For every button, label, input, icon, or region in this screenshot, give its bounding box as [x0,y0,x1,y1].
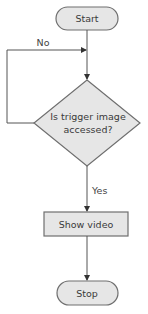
decision-node: Is trigger image accessed? [34,80,140,166]
stop-label: Stop [76,288,98,299]
flowchart: Start No Is trigger image accessed? Yes … [0,0,148,314]
process-node: Show video [44,212,128,236]
stop-node: Stop [57,281,118,305]
decision-label-line2: accessed? [64,124,113,135]
process-label: Show video [59,219,114,230]
no-label: No [37,37,50,48]
yes-label: Yes [91,185,107,196]
start-label: Start [75,13,98,24]
start-node: Start [56,7,118,30]
decision-label-line1: Is trigger image [50,111,126,122]
